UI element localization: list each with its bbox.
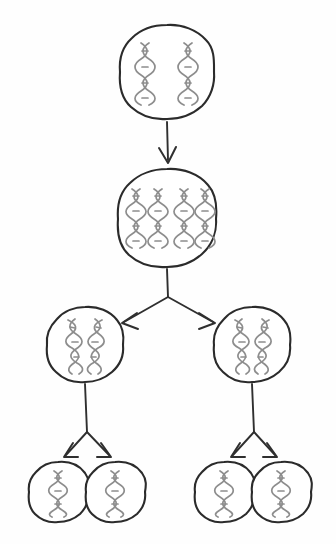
cell-left-mid — [47, 307, 124, 382]
cell-outline — [252, 462, 312, 522]
cell-outline — [195, 462, 255, 522]
arrow-split-right-second — [231, 384, 277, 457]
arrow-split-first — [122, 269, 215, 329]
cell-bottom-4 — [252, 462, 312, 522]
arrow-split-left-second — [64, 384, 111, 457]
cell-bottom-2 — [86, 462, 146, 522]
cell-right-mid — [214, 307, 291, 382]
cell-outline — [29, 462, 89, 522]
cell-outline — [118, 169, 217, 267]
arrow-replication — [159, 122, 176, 163]
cell-outline — [86, 462, 146, 522]
cell-replicated — [118, 169, 217, 267]
cell-outline — [120, 25, 214, 119]
cell-outline — [47, 307, 124, 382]
cell-bottom-3 — [195, 462, 255, 522]
cell-parent — [120, 25, 214, 119]
cell-outline — [214, 307, 291, 382]
diagram-canvas — [0, 0, 336, 544]
cell-bottom-1 — [29, 462, 89, 522]
cell-division-diagram — [0, 0, 336, 544]
